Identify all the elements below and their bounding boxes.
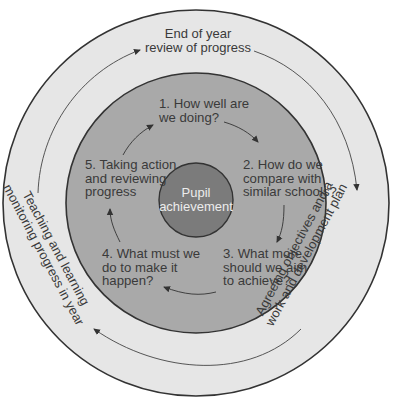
inner-step-2-label: 2. How do we compare with similar school… [243,158,337,199]
school-improvement-cycle-diagram: Pupil achievement End of year review of … [0,0,393,405]
inner-step-1-label: 1. How well are we doing? [159,97,249,124]
inner-step-3-label: 3. What more should we aim to achieve? [223,247,307,288]
inner-step-4-label: 4. What must we do to make it happen? [102,247,200,288]
inner-step-5-label: 5. Taking action and reviewing progress [85,158,176,199]
outer-label-end-of-year-review: End of year review of progress [128,27,268,54]
